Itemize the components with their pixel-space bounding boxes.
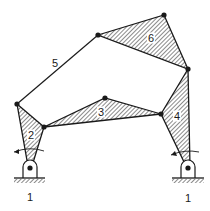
- link-2-label: 2: [27, 130, 35, 141]
- link-5-bar: [17, 35, 98, 104]
- link-4-label: 4: [173, 111, 181, 122]
- linkage-diagram: 5 6 3 2 4 1 1: [0, 0, 210, 211]
- link-6-label: 6: [147, 33, 155, 44]
- ground-left-label: 1: [27, 192, 33, 203]
- ground-right-label: 1: [185, 193, 191, 204]
- link-3-label: 3: [97, 107, 105, 118]
- link-6-body: [98, 15, 188, 69]
- link-5-label: 5: [52, 58, 58, 69]
- mechanism-drawing: [0, 0, 210, 211]
